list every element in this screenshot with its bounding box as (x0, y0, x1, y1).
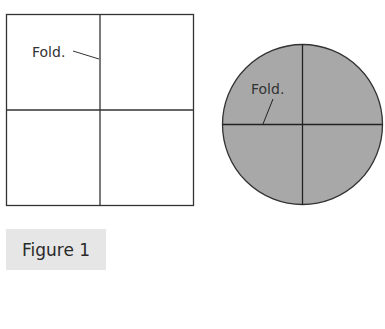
folded-circle: Fold. (223, 45, 383, 205)
folded-square: Fold. (7, 15, 194, 206)
figure-canvas: Fold. Fold. (0, 0, 385, 329)
square-fold-label: Fold. (32, 44, 65, 60)
figure-caption: Figure 1 (6, 229, 106, 270)
circle-fold-label: Fold. (251, 81, 284, 97)
